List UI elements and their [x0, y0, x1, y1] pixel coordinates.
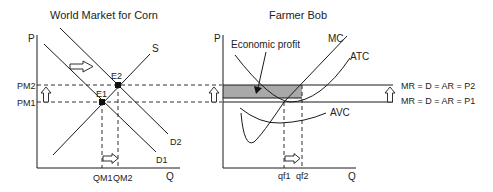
e1-label: E1 [96, 89, 107, 99]
right-y-axis-label: P [214, 33, 221, 44]
equilibrium-point-e1 [99, 99, 105, 105]
atc-label: ATC [350, 51, 369, 62]
qm2-label: QM2 [113, 173, 133, 183]
avc-label: AVC [330, 107, 350, 118]
demand-shift-right-arrow-icon [70, 61, 93, 72]
qf2-label: qf2 [296, 171, 309, 181]
d1-label: D1 [156, 155, 168, 165]
avc-curve [240, 108, 326, 123]
pm2-label: PM2 [17, 81, 36, 91]
d2-label: D2 [170, 137, 182, 147]
right-edge-price-increase-arrow-icon [385, 87, 395, 102]
qf1-label: qf1 [278, 171, 291, 181]
economic-profit-pointer-line [258, 52, 266, 88]
diagram-canvas: World Market for Corn P Q PM2 PM1 S D1 D… [0, 0, 493, 192]
price-increase-arrow-icon [41, 87, 51, 102]
right-x-axis-label: Q [348, 171, 356, 182]
mr-p1-label: MR = D = AR = P1 [401, 96, 475, 106]
qm1-label: QM1 [93, 173, 113, 183]
left-title: World Market for Corn [50, 9, 158, 21]
left-x-axis-label: Q [166, 171, 174, 182]
equilibrium-point-e2 [115, 82, 121, 88]
right-title: Farmer Bob [269, 9, 327, 21]
mr-p2-label: MR = D = AR = P2 [401, 81, 475, 91]
supply-label: S [152, 43, 159, 54]
firm-quantity-increase-arrow-icon [285, 154, 300, 164]
left-y-axis-label: P [28, 33, 35, 44]
right-axis-price-increase-arrow-icon [209, 87, 219, 102]
quantity-increase-arrow-icon [103, 154, 118, 164]
farmer-bob-chart: Farmer Bob P Q ATC AVC MC Economic profi… [209, 9, 475, 182]
pm1-label: PM1 [17, 98, 36, 108]
economic-profit-label: Economic profit [231, 39, 300, 50]
e2-label: E2 [111, 71, 122, 81]
world-market-chart: World Market for Corn P Q PM2 PM1 S D1 D… [17, 9, 222, 183]
mc-label: MC [328, 33, 344, 44]
